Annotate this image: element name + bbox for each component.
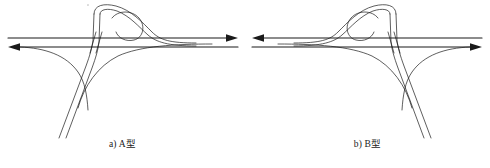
minor-road-east-edge: [66, 14, 100, 138]
interchange-diagram-b: [245, 0, 490, 140]
figure-panel-b: b) B型: [245, 0, 490, 168]
arrowhead-west-mirrored: [252, 34, 264, 42]
figure-panel-a: a) A型: [0, 0, 245, 168]
loop-ramp-outer-edge: [94, 5, 196, 43]
panel-b-caption: b) B型: [245, 138, 490, 151]
direct-ramp-west-to-minor: [20, 47, 88, 110]
direct-ramp-minor-to-east: [78, 44, 212, 108]
loop-ramp-outer-edge: [294, 5, 396, 43]
diagram-b-geometry: [252, 5, 482, 138]
figure-board: a) A型 b) B型: [0, 0, 490, 168]
direct-ramp-west-to-minor: [402, 47, 470, 110]
interchange-diagram-a: [0, 0, 245, 140]
minor-road-east-edge: [390, 14, 424, 138]
arrowhead-east-mirrored: [470, 43, 482, 51]
arrowhead-east: [226, 34, 238, 42]
arrowhead-west: [8, 43, 20, 51]
direct-ramp-minor-to-east: [278, 44, 412, 108]
panel-a-caption: a) A型: [0, 138, 245, 151]
diagram-a-geometry: [8, 5, 238, 138]
